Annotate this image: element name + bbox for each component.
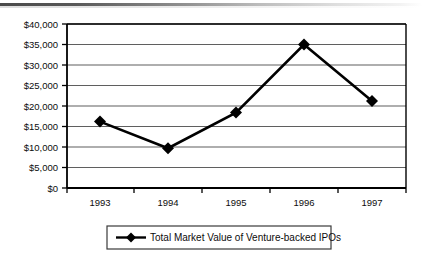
legend-entry-label: Total Market Value of Venture-backed IPO… bbox=[150, 232, 341, 243]
x-label-1996: 1996 bbox=[293, 197, 314, 208]
series-line bbox=[100, 45, 372, 149]
y-label-15000: $15,000 bbox=[24, 121, 58, 132]
gridlines bbox=[67, 24, 406, 168]
y-label-10000: $10,000 bbox=[24, 142, 58, 153]
y-label-0: $0 bbox=[47, 183, 58, 194]
y-label-30000: $30,000 bbox=[24, 60, 58, 71]
x-label-1997: 1997 bbox=[361, 197, 382, 208]
chart-figure: $40,000 $35,000 $30,000 $25,000 $20,000 … bbox=[0, 0, 422, 259]
x-label-1994: 1994 bbox=[157, 197, 178, 208]
line-chart-plot: $40,000 $35,000 $30,000 $25,000 $20,000 … bbox=[0, 0, 422, 259]
x-label-1993: 1993 bbox=[89, 197, 110, 208]
x-axis-labels: 1993 1994 1995 1996 1997 bbox=[89, 197, 382, 208]
chart-legend[interactable]: Total Market Value of Venture-backed IPO… bbox=[107, 226, 341, 249]
data-series-total-market-value bbox=[94, 39, 378, 155]
y-label-20000: $20,000 bbox=[24, 101, 58, 112]
y-label-40000: $40,000 bbox=[24, 19, 58, 30]
data-point-1993 bbox=[94, 116, 106, 128]
y-axis-labels: $40,000 $35,000 $30,000 $25,000 $20,000 … bbox=[24, 19, 58, 194]
x-label-1995: 1995 bbox=[225, 197, 246, 208]
y-label-5000: $5,000 bbox=[29, 162, 58, 173]
y-label-25000: $25,000 bbox=[24, 80, 58, 91]
data-point-1994 bbox=[162, 142, 174, 154]
y-label-35000: $35,000 bbox=[24, 39, 58, 50]
